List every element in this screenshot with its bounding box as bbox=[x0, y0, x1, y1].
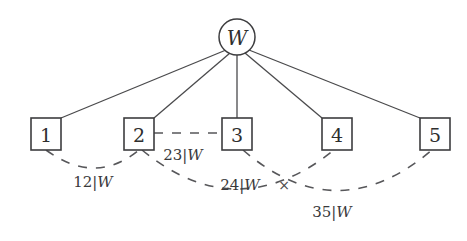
dashed-edge-1-2 bbox=[46, 150, 139, 168]
edge-label-23: 23|W bbox=[163, 146, 204, 164]
edge-w-to-4 bbox=[245, 53, 322, 118]
graph-diagram: W 1 2 3 4 5 12|W 23|W bbox=[0, 0, 467, 241]
node-2-label: 2 bbox=[133, 124, 145, 146]
node-w: W bbox=[219, 19, 255, 55]
edge-label-24: 24|W bbox=[220, 176, 261, 194]
node-5-label: 5 bbox=[429, 124, 441, 146]
edge-label-12: 12|W bbox=[73, 173, 114, 191]
edge-label-23-number: 23 bbox=[163, 146, 182, 164]
node-5: 5 bbox=[420, 118, 450, 150]
edge-label-12-number: 12 bbox=[73, 173, 92, 191]
node-4-label: 4 bbox=[331, 124, 343, 146]
edge-w-to-1 bbox=[61, 50, 226, 118]
crossing-mark-icon: × bbox=[278, 177, 290, 193]
diagram-canvas: W 1 2 3 4 5 12|W 23|W bbox=[0, 0, 467, 241]
node-1: 1 bbox=[31, 118, 61, 150]
edge-label-24-number: 24 bbox=[220, 176, 239, 194]
solid-edge-group bbox=[61, 50, 420, 118]
edge-w-to-5 bbox=[249, 50, 420, 118]
dashed-edge-3-5 bbox=[243, 150, 432, 191]
edge-label-24-condition: W bbox=[244, 176, 261, 194]
edge-w-to-2 bbox=[154, 53, 230, 118]
edge-label-35-number: 35 bbox=[312, 203, 331, 221]
edge-label-group: 12|W 23|W 24|W 35|W bbox=[73, 146, 353, 221]
node-2: 2 bbox=[124, 118, 154, 150]
node-w-label: W bbox=[227, 26, 249, 50]
edge-label-35: 35|W bbox=[312, 203, 353, 221]
edge-label-23-condition: W bbox=[187, 146, 204, 164]
node-3-label: 3 bbox=[231, 124, 243, 146]
node-3: 3 bbox=[222, 118, 252, 150]
node-1-label: 1 bbox=[40, 124, 52, 146]
edge-label-35-condition: W bbox=[336, 203, 353, 221]
node-4: 4 bbox=[322, 118, 352, 150]
edge-label-12-condition: W bbox=[97, 173, 114, 191]
